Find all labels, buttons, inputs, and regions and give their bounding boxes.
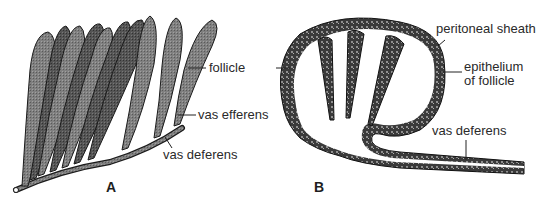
panel-a-drawing	[14, 16, 218, 193]
label-of-follicle: of follicle	[464, 74, 515, 88]
label-vas-efferens: vas efferens	[198, 108, 269, 122]
label-vas-deferens-b: vas deferens	[432, 124, 506, 138]
panel-label-b: B	[314, 179, 324, 195]
label-follicle: follicle	[209, 61, 245, 75]
panel-label-a: A	[106, 179, 116, 195]
label-vas-deferens-a: vas deferens	[163, 148, 237, 162]
label-peritoneal-sheath: peritoneal sheath	[436, 22, 536, 36]
label-epithelium: epithelium	[464, 60, 523, 74]
figure: follicle vas efferens vas deferens A per…	[0, 0, 548, 204]
panel-b-drawing	[280, 18, 524, 174]
